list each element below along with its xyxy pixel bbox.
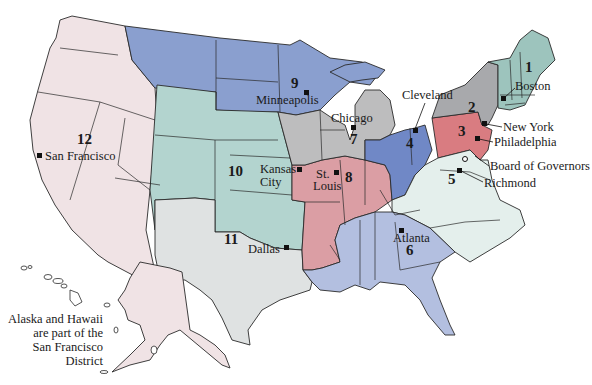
district-6-number: 6 xyxy=(406,243,414,258)
kansas-city-label-line2: City xyxy=(260,176,282,189)
dallas-marker xyxy=(284,245,289,250)
dallas-label: Dallas xyxy=(248,243,280,256)
note-line-2: are part of the xyxy=(0,326,103,340)
boston-marker xyxy=(501,96,506,101)
minneapolis-label: Minneapolis xyxy=(256,94,319,107)
san-francisco-label: San Francisco xyxy=(45,150,115,163)
alaska-hawaii-note: Alaska and Hawaii are part of the San Fr… xyxy=(0,312,103,368)
district-7-number: 7 xyxy=(350,132,358,147)
district-11-number: 11 xyxy=(224,232,238,247)
federal-reserve-district-map: 1 2 3 4 5 6 7 8 9 10 11 12 Boston New Yo… xyxy=(0,0,592,385)
district-12-number: 12 xyxy=(77,132,92,147)
cleveland-marker xyxy=(413,128,418,133)
boston-label: Boston xyxy=(515,80,550,93)
richmond-label: Richmond xyxy=(484,177,536,190)
hawaii-islands xyxy=(21,266,110,308)
board-of-governors-marker xyxy=(462,156,468,162)
philadelphia-label: Philadelphia xyxy=(494,136,557,149)
chicago-label: Chicago xyxy=(331,112,373,125)
district-8-number: 8 xyxy=(345,170,353,185)
st-louis-marker xyxy=(334,170,339,175)
district-3-number: 3 xyxy=(458,124,466,139)
district-10-number: 10 xyxy=(228,164,243,179)
note-line-1: Alaska and Hawaii xyxy=(0,312,103,326)
district-5-number: 5 xyxy=(448,172,456,187)
district-1-region xyxy=(488,30,555,110)
richmond-marker xyxy=(457,168,462,173)
kansas-city-marker xyxy=(297,167,302,172)
new-york-marker xyxy=(482,121,487,126)
philadelphia-marker xyxy=(475,136,480,141)
san-francisco-marker xyxy=(37,153,42,158)
district-4-number: 4 xyxy=(406,136,414,151)
kansas-city-label-line1: Kansas xyxy=(260,163,296,176)
note-line-3: San Francisco District xyxy=(0,340,103,368)
new-york-label: New York xyxy=(503,121,554,134)
chicago-marker xyxy=(351,125,356,130)
district-9-number: 9 xyxy=(291,76,299,91)
district-1-number: 1 xyxy=(525,60,533,75)
district-2-number: 2 xyxy=(468,100,476,115)
board-of-governors-label: Board of Governors xyxy=(490,160,590,173)
atlanta-label: Atlanta xyxy=(393,232,430,245)
st-louis-label-line2: Louis xyxy=(313,180,341,193)
cleveland-label: Cleveland xyxy=(402,89,453,102)
